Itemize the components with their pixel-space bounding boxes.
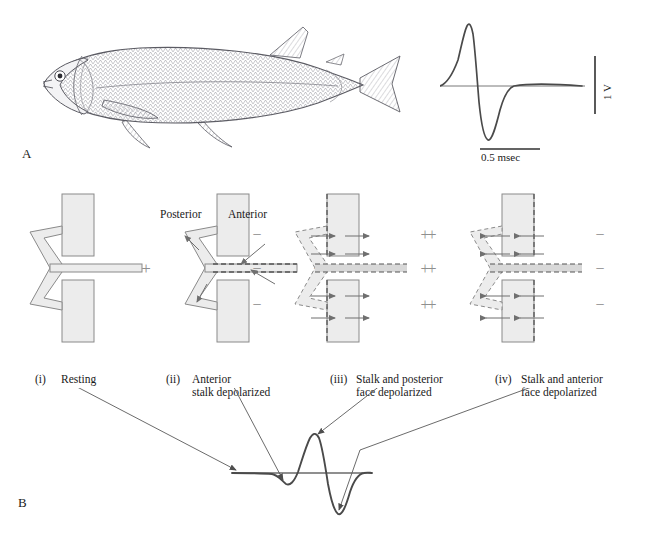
fish-illustration bbox=[8, 8, 438, 173]
electrocyte-stage-i bbox=[30, 194, 142, 342]
caption-numeral: (ii) bbox=[166, 373, 192, 386]
leader-arrow-ii bbox=[228, 388, 283, 480]
caption-numeral: (i) bbox=[35, 373, 61, 386]
label-anterior: Anterior bbox=[228, 208, 267, 220]
summed-curve bbox=[232, 434, 372, 514]
electrocyte-stage-iv: + + + − − − bbox=[427, 194, 604, 342]
svg-text:−: − bbox=[595, 226, 604, 243]
svg-text:+: + bbox=[427, 260, 436, 277]
label-posterior: Posterior bbox=[160, 208, 202, 220]
svg-text:+: + bbox=[427, 226, 436, 243]
eod-curve bbox=[440, 24, 582, 140]
separator-sign: + bbox=[141, 259, 151, 278]
svg-text:−: − bbox=[595, 296, 604, 313]
leader-arrow-iv-seg2 bbox=[339, 450, 360, 510]
svg-text:−: − bbox=[252, 260, 261, 277]
panel-a-label: A bbox=[22, 146, 31, 162]
figure-electric-fish-eod: A 1 V 0.5 msec bbox=[0, 0, 655, 537]
vertical-scale-label: 1 V bbox=[601, 84, 613, 100]
svg-text:−: − bbox=[252, 296, 261, 313]
caption-numeral: (iv) bbox=[495, 373, 521, 386]
electrocyte-diagram-row: + − bbox=[0, 192, 655, 367]
leader-arrow-i bbox=[60, 388, 236, 470]
svg-text:−: − bbox=[595, 260, 604, 277]
caption-text: Resting bbox=[61, 373, 96, 386]
horizontal-scale-label: 0.5 msec bbox=[481, 151, 520, 163]
leader-arrow-iii bbox=[318, 388, 390, 434]
leader-arrow-iv-seg1 bbox=[360, 388, 556, 450]
summed-eod-waveform bbox=[0, 388, 655, 537]
panel-b-label: B bbox=[18, 495, 27, 511]
caption-stage-i: (i)Resting bbox=[35, 360, 155, 386]
svg-text:+: + bbox=[427, 296, 436, 313]
caption-numeral: (iii) bbox=[330, 373, 356, 386]
svg-text:−: − bbox=[252, 226, 261, 243]
